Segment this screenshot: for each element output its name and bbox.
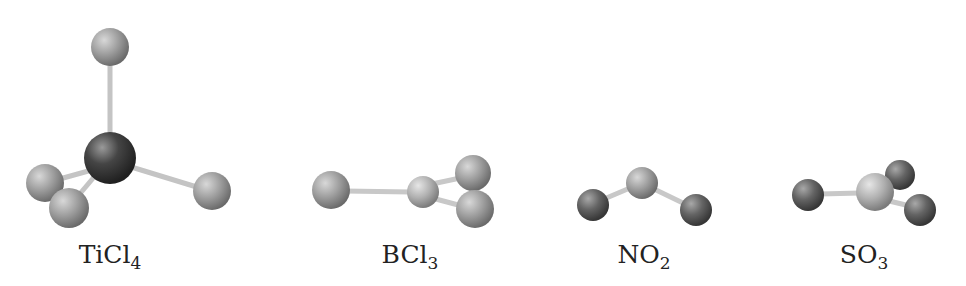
formula-text: TiCl [79,240,131,269]
formula-text: NO [617,240,659,269]
molecule-so3 [792,160,936,226]
cl-atom-left [312,171,350,209]
ti-atom [84,132,136,184]
o-atom-lower [904,194,936,226]
label-ticl4: TiCl4 [79,240,142,273]
n-atom [626,167,658,199]
label-no2: NO2 [617,240,670,273]
o-atom-left [792,179,824,211]
cl-atom-top [91,28,129,66]
b-atom [407,176,439,208]
cl-atom-lower [456,190,494,228]
cl-atom-right [193,172,231,210]
molecular-models [0,0,966,286]
formula-subscript: 4 [130,253,141,273]
molecule-bcl3 [312,155,494,228]
label-bcl3: BCl3 [382,240,439,273]
formula-subscript: 3 [877,253,888,273]
o-atom-right [680,194,712,226]
cl-atom-front [49,188,89,228]
formula-text: BCl [382,240,428,269]
s-atom [856,173,894,211]
label-so3: SO3 [840,240,888,273]
molecule-ticl4 [26,28,231,228]
formula-subscript: 2 [660,253,671,273]
formula-text: SO [840,240,878,269]
molecule-no2 [577,167,712,226]
cl-atom-upper [455,155,491,191]
formula-subscript: 3 [428,253,439,273]
o-atom-left [577,189,609,221]
